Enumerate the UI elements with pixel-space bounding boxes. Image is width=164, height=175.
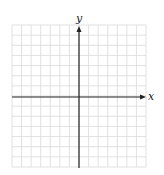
- x-axis-arrow-icon: [140, 95, 146, 100]
- y-axis-label: y: [76, 13, 82, 24]
- y-axis-arrow-icon: [77, 26, 82, 32]
- x-axis-label: x: [148, 91, 154, 102]
- coordinate-plane: y x: [0, 0, 164, 175]
- coordinate-grid: [0, 0, 164, 175]
